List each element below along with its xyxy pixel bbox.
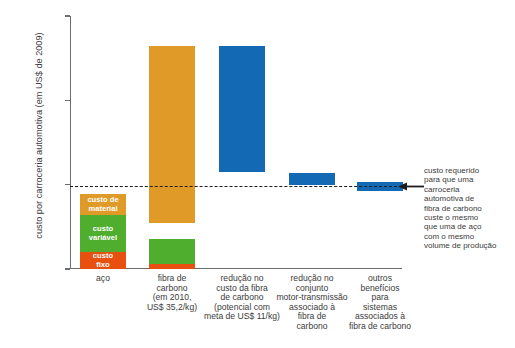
bar-outros-beneficios[interactable] xyxy=(357,16,403,269)
y-tick-0 xyxy=(65,268,70,269)
category-label-aco: aço xyxy=(74,274,132,284)
category-label-outros-beneficios: outrosbenefíciosparasistemasassociados à… xyxy=(339,274,421,332)
bar-reducao-custo-fibra[interactable] xyxy=(219,16,265,269)
bar-reducao-motor-transmissao[interactable] xyxy=(289,16,335,269)
bar-fibra-segment-variavel[interactable] xyxy=(149,239,195,263)
y-tick-3 xyxy=(65,15,70,16)
segment-label-material: custo dematerial xyxy=(80,196,126,213)
bar-aco[interactable]: custo dematerial custovariável custofixo xyxy=(80,16,126,269)
threshold-annotation-text: custo requeridopara que umacarroceriaaut… xyxy=(424,166,514,251)
bar-fibra-segment-fixo[interactable] xyxy=(149,264,195,269)
category-label-fibra-de-carbono: fibra decarbono(em 2010,US$ 35,2/kg) xyxy=(136,274,208,312)
y-axis-line xyxy=(70,16,71,269)
y-axis-title: custo por carroceria automotiva (em US$ … xyxy=(34,1,45,271)
plot-area: 0 1.000 2.000 3.000 custo dematerial cus… xyxy=(70,16,402,269)
segment-label-variavel: custovariável xyxy=(80,225,126,242)
bar-fibra-de-carbono[interactable] xyxy=(149,16,195,269)
annotation-arrow-icon xyxy=(398,182,424,191)
bar-reducao-motor-transmissao-body[interactable] xyxy=(289,173,335,184)
bar-fibra-segment-material[interactable] xyxy=(149,46,195,222)
carbon-fiber-cost-chart: custo por carroceria automotiva (em US$ … xyxy=(0,0,515,348)
segment-label-fixo: custofixo xyxy=(80,252,126,269)
bar-aco-segment-material[interactable]: custo dematerial xyxy=(80,194,126,214)
bar-reducao-custo-fibra-body[interactable] xyxy=(219,46,265,172)
bar-aco-segment-variavel[interactable]: custovariável xyxy=(80,215,126,252)
threshold-dashed-line xyxy=(70,186,402,187)
y-tick-2 xyxy=(65,100,70,101)
bar-aco-segment-fixo[interactable]: custofixo xyxy=(80,252,126,269)
